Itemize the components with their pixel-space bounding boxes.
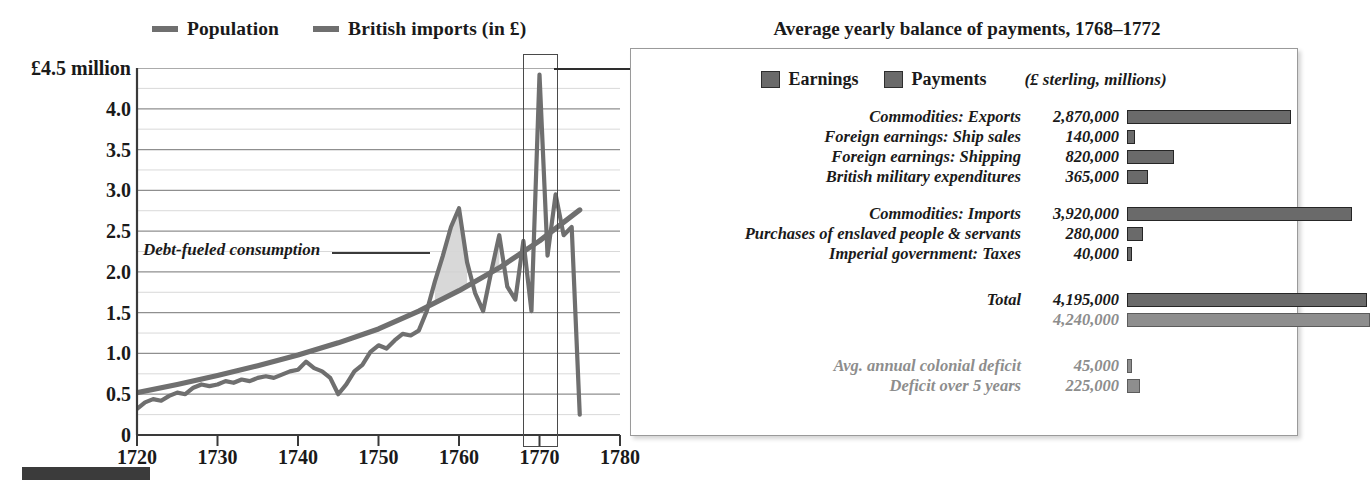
chart-annotation: Debt-fueled consumption [143,240,320,260]
row-label: Foreign earnings: Ship sales [631,129,1031,146]
row-label: Avg. annual colonial deficit [631,358,1031,375]
decorative-footer-bar [22,467,150,480]
table-row: Avg. annual colonial deficit45,000 [631,356,1297,376]
row-bar-zone [1127,226,1297,242]
row-bar [1127,110,1291,124]
legend-label-population: Population [187,18,279,40]
row-value: 225,000 [1031,378,1127,395]
row-value: 3,920,000 [1031,206,1127,223]
row-bar [1127,130,1135,144]
legend-item-payments: Payments [884,69,986,90]
population-line [137,210,580,393]
x-axis-tick-1730: 1730 [183,447,253,467]
legend-item-earnings: Earnings [761,69,858,90]
row-bar-zone [1127,312,1297,328]
legend-item-population: Population [152,18,279,40]
y-axis-tick-3: 3.0 [10,180,131,200]
row-value: 280,000 [1031,226,1127,243]
line-chart-legend: Population British imports (in £) [152,14,572,44]
row-label: Commodities: Imports [631,206,1031,223]
table-row: Deficit over 5 years225,000 [631,376,1297,396]
y-axis-tick-1-5: 1.5 [10,303,131,323]
panel-legend: Earnings Payments (£ sterling, millions) [631,69,1297,90]
y-axis-tick-4-5: £4.5 million [10,58,131,78]
row-bar [1127,379,1140,393]
row-value: 4,240,000 [1031,312,1127,329]
table-row: 4,240,000 [631,310,1297,330]
row-bar-zone [1127,109,1297,125]
x-axis-tick-1760: 1760 [424,447,494,467]
row-value: 45,000 [1031,358,1127,375]
y-axis-tick-2: 2.0 [10,262,131,282]
x-axis-labels: 1720173017401750176017701780 [90,441,670,471]
row-bar [1127,247,1132,261]
y-axis-labels: £4.5 million4.03.53.02.52.01.51.00.50 [0,0,131,498]
row-bar-zone [1127,149,1297,165]
row-value: 40,000 [1031,246,1127,263]
row-label: British military expenditures [631,169,1031,186]
x-axis-tick-1740: 1740 [263,447,333,467]
row-bar [1127,359,1132,373]
row-bar [1127,293,1367,307]
population-swatch-icon [152,26,178,32]
table-row: Commodities: Imports3,920,000 [631,204,1297,224]
x-axis-tick-1720: 1720 [102,447,172,467]
row-bar-zone [1127,358,1297,374]
row-label: Deficit over 5 years [631,378,1031,395]
y-axis-tick-4: 4.0 [10,99,131,119]
row-label: Imperial government: Taxes [631,246,1031,263]
row-bar [1127,227,1143,241]
row-value: 140,000 [1031,129,1127,146]
table-row: Purchases of enslaved people & servants2… [631,224,1297,244]
row-bar-zone [1127,378,1297,394]
row-bar [1127,170,1148,184]
legend-item-british-imports: British imports (in £) [313,18,526,40]
row-bar-zone [1127,246,1297,262]
y-axis-tick-2-5: 2.5 [10,221,131,241]
row-bar [1127,150,1174,164]
table-row: Foreign earnings: Shipping820,000 [631,147,1297,167]
panel-rows: Commodities: Exports2,870,000Foreign ear… [631,107,1297,396]
row-bar [1127,313,1370,327]
payments-swatch-icon [884,71,903,88]
row-bar-zone [1127,129,1297,145]
highlight-box-1768-1772[interactable] [523,54,557,447]
panel-title: Average yearly balance of payments, 1768… [742,18,1192,40]
british-imports-swatch-icon [313,26,339,32]
table-row: Commodities: Exports2,870,000 [631,107,1297,127]
legend-label-payments: Payments [911,69,986,90]
table-row: British military expenditures365,000 [631,167,1297,187]
row-value: 4,195,000 [1031,292,1127,309]
row-bar-zone [1127,206,1297,222]
x-axis-tick-1750: 1750 [344,447,414,467]
row-label: Commodities: Exports [631,109,1031,126]
row-bar-zone [1127,169,1297,185]
table-row: Imperial government: Taxes40,000 [631,244,1297,264]
row-label: Foreign earnings: Shipping [631,149,1031,166]
balance-of-payments-panel: Earnings Payments (£ sterling, millions)… [630,48,1298,436]
y-axis-tick-0-5: 0.5 [10,384,131,404]
annotation-leader-line [332,252,430,254]
table-row: Total4,195,000 [631,290,1297,310]
row-label: Total [631,292,1031,309]
legend-label-earnings: Earnings [788,69,858,90]
table-row: Foreign earnings: Ship sales140,000 [631,127,1297,147]
y-axis-tick-3-5: 3.5 [10,140,131,160]
legend-label-british-imports: British imports (in £) [348,18,526,40]
row-bar [1127,207,1352,221]
row-value: 820,000 [1031,149,1127,166]
row-value: 365,000 [1031,169,1127,186]
row-label: Purchases of enslaved people & servants [631,226,1031,243]
x-axis-tick-1780: 1780 [585,447,655,467]
y-axis-tick-1: 1.0 [10,343,131,363]
earnings-swatch-icon [761,71,780,88]
row-value: 2,870,000 [1031,109,1127,126]
panel-units-note: (£ sterling, millions) [1024,70,1166,90]
row-bar-zone [1127,292,1297,308]
x-axis-tick-1770: 1770 [505,447,575,467]
